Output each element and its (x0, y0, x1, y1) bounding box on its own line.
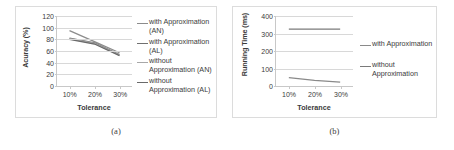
chart-panel-a: Acuracy (%) 02040608010012010%20%30% Tol… (15, 6, 217, 118)
chart-legend-b: with Approximationwithout Approximation (360, 39, 438, 89)
y-tick-mark (274, 69, 277, 70)
y-tick-mark (55, 16, 58, 17)
plot-area-b: 010020030040010%20%30% (275, 16, 353, 86)
legend-line-swatch-icon (360, 63, 371, 70)
y-tick-label: 100 (261, 65, 273, 72)
y-tick-label: 40 (46, 59, 54, 66)
x-tick-label: 20% (88, 91, 102, 98)
x-tick-mark (70, 86, 71, 89)
y-tick-mark (274, 34, 277, 35)
y-axis-title-a: Acuracy (%) (21, 17, 30, 79)
x-tick-mark (120, 86, 121, 89)
gridline (57, 28, 132, 29)
legend-line-swatch-icon (360, 42, 371, 49)
y-tick-mark (274, 51, 277, 52)
series-line (70, 31, 120, 53)
gridline (276, 34, 353, 35)
x-tick-label: 20% (308, 91, 322, 98)
y-tick-mark (55, 86, 58, 87)
y-tick-label: 200 (261, 48, 273, 55)
y-tick-mark (55, 63, 58, 64)
y-tick-label: 300 (261, 30, 273, 37)
legend-entry[interactable]: with Approximation (AN) (137, 17, 217, 35)
series-line (289, 78, 340, 83)
gridline (276, 16, 353, 17)
legend-entry[interactable]: with Approximation (360, 39, 438, 49)
x-tick-mark (95, 86, 96, 89)
legend-label: with Approximation (372, 39, 432, 48)
legend-line-swatch-icon (137, 20, 148, 27)
legend-line-swatch-icon (137, 59, 148, 66)
figure-container: Acuracy (%) 02040608010012010%20%30% Tol… (0, 0, 454, 150)
y-axis-title-b: Running Time (ms) (240, 10, 249, 80)
y-tick-label: 20 (46, 71, 54, 78)
y-tick-label: 0 (50, 83, 54, 90)
caption-b: (b) (232, 126, 437, 136)
x-axis-title-b: Tolerance (255, 103, 373, 112)
y-tick-label: 120 (42, 13, 54, 20)
x-tick-label: 10% (63, 91, 77, 98)
gridline (57, 39, 132, 40)
y-tick-mark (55, 51, 58, 52)
x-tick-mark (341, 86, 342, 89)
x-tick-label: 10% (282, 91, 296, 98)
legend-label: with Approximation (AN) (149, 17, 217, 35)
gridline (276, 69, 353, 70)
x-tick-label: 30% (334, 91, 348, 98)
gridline (57, 16, 132, 17)
legend-line-swatch-icon (137, 79, 148, 86)
plot-area-a: 02040608010012010%20%30% (56, 16, 132, 86)
y-tick-mark (274, 86, 277, 87)
x-tick-mark (289, 86, 290, 89)
gridline (276, 51, 353, 52)
legend-line-swatch-icon (137, 40, 148, 47)
legend-entry[interactable]: without Approximation (360, 60, 438, 78)
y-tick-label: 0 (269, 83, 273, 90)
chart-panel-b: Running Time (ms) 010020030040010%20%30%… (232, 6, 437, 118)
y-tick-label: 400 (261, 13, 273, 20)
gridline (57, 51, 132, 52)
legend-label: with Approximation (AL) (149, 37, 217, 55)
legend-entry[interactable]: without Approximation (AN) (137, 56, 217, 74)
x-tick-label: 30% (113, 91, 127, 98)
caption-a: (a) (15, 126, 217, 136)
y-tick-mark (274, 16, 277, 17)
y-tick-mark (55, 28, 58, 29)
legend-entry[interactable]: without Approximation (AL) (137, 76, 217, 94)
y-tick-label: 60 (46, 48, 54, 55)
y-tick-label: 80 (46, 36, 54, 43)
legend-label: without Approximation (AN) (149, 56, 217, 74)
gridline (57, 63, 132, 64)
y-tick-mark (55, 39, 58, 40)
chart-legend-a: with Approximation (AN)with Approximatio… (137, 17, 217, 95)
y-tick-label: 100 (42, 24, 54, 31)
x-axis-title-a: Tolerance (36, 103, 152, 112)
x-tick-mark (315, 86, 316, 89)
legend-label: without Approximation (372, 60, 438, 78)
gridline (57, 74, 132, 75)
legend-label: without Approximation (AL) (149, 76, 217, 94)
y-tick-mark (55, 74, 58, 75)
legend-entry[interactable]: with Approximation (AL) (137, 37, 217, 55)
